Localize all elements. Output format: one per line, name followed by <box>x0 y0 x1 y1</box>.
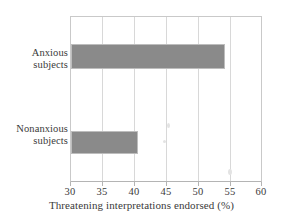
xtick-label-35: 35 <box>87 186 117 197</box>
xtick-label-30: 30 <box>55 186 85 197</box>
gridline-45 <box>166 17 167 181</box>
xtick-label-50: 50 <box>183 186 213 197</box>
scan-speckle <box>228 169 232 175</box>
scan-speckle <box>163 140 166 143</box>
bar-nonanxious-subjects <box>71 131 138 154</box>
bar-anxious-subjects <box>71 44 225 69</box>
category-label-line: subjects <box>0 59 68 71</box>
category-label-line: subjects <box>0 135 68 147</box>
gridline-50 <box>198 17 199 181</box>
plot-area <box>70 16 262 182</box>
gridline-35 <box>102 17 103 181</box>
xtick-label-55: 55 <box>215 186 245 197</box>
category-label-anxious-subjects: Anxious subjects <box>0 47 68 70</box>
category-label-line: Nonanxious <box>0 123 68 135</box>
category-label-line: Anxious <box>0 47 68 59</box>
scan-speckle <box>167 123 170 128</box>
bar-chart: Anxious subjects Nonanxious subjects 30 … <box>0 0 283 218</box>
gridline-55 <box>230 17 231 181</box>
xtick-label-40: 40 <box>119 186 149 197</box>
gridline-40 <box>134 17 135 181</box>
x-axis-title: Threatening interpretations endorsed (%) <box>0 199 283 211</box>
xtick-label-60: 60 <box>246 186 276 197</box>
xtick-label-45: 45 <box>151 186 181 197</box>
category-label-nonanxious-subjects: Nonanxious subjects <box>0 123 68 146</box>
